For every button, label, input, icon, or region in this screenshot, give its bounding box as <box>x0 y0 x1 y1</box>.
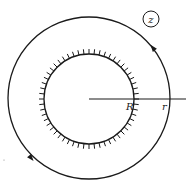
hatch-mark <box>130 77 135 79</box>
hatch-mark <box>113 57 116 61</box>
hatch-mark <box>39 104 44 105</box>
hatch-mark <box>54 131 58 135</box>
hatch-mark <box>78 143 79 148</box>
hatch-mark <box>117 134 120 138</box>
hatch-mark <box>67 54 69 59</box>
plane-label: z <box>147 14 154 25</box>
hatch-mark <box>99 50 100 55</box>
hatch-mark <box>54 64 58 68</box>
hatch-mark <box>124 127 128 130</box>
hatch-mark <box>131 82 136 84</box>
outer-radius-label: r <box>162 101 168 112</box>
hatch-mark <box>44 119 49 121</box>
hatch-mark <box>99 143 100 148</box>
hatch-mark <box>94 144 95 149</box>
hatch-mark <box>72 141 74 146</box>
hatch-mark <box>72 52 74 57</box>
hatch-mark <box>127 72 131 75</box>
hatch-mark <box>47 72 51 75</box>
hatch-mark <box>62 137 65 141</box>
hatch-mark <box>109 54 111 59</box>
hatch-mark <box>67 140 69 145</box>
hatch-mark <box>40 88 45 89</box>
hatch-mark <box>121 131 125 135</box>
hatch-mark <box>83 49 84 54</box>
hatch-mark <box>124 68 128 71</box>
hatch-mark <box>131 114 136 116</box>
hatch-mark <box>127 123 131 126</box>
hatch-mark <box>83 144 84 149</box>
hatch-mark <box>133 109 138 110</box>
hatch-mark <box>134 104 139 105</box>
hatch-mark <box>50 127 54 130</box>
hatch-mark <box>50 68 54 71</box>
hatch-mark <box>58 134 61 138</box>
hatch-mark <box>104 141 106 146</box>
hatch-mark <box>133 88 138 89</box>
hatch-mark <box>42 114 47 116</box>
hatch-mark <box>113 137 116 141</box>
hatch-mark <box>40 109 45 110</box>
hatch-mark <box>78 50 79 55</box>
hatch-mark <box>117 60 120 64</box>
hatch-mark <box>109 140 111 145</box>
inner-radius-label: R <box>125 101 134 112</box>
outer-contour-circle <box>8 17 170 179</box>
hatch-mark <box>130 119 135 121</box>
hatch-mark <box>134 93 139 94</box>
hatch-mark <box>42 82 47 84</box>
hatch-mark <box>121 64 125 68</box>
hatch-mark <box>58 60 61 64</box>
hatch-mark <box>94 49 95 54</box>
hatch-mark <box>62 57 65 61</box>
hatch-mark <box>39 93 44 94</box>
hatch-mark <box>44 77 49 79</box>
stray-mark <box>3 159 4 160</box>
hatch-mark <box>104 52 106 57</box>
hatch-mark <box>47 123 51 126</box>
annulus-contour-diagram: R r z <box>0 0 192 183</box>
